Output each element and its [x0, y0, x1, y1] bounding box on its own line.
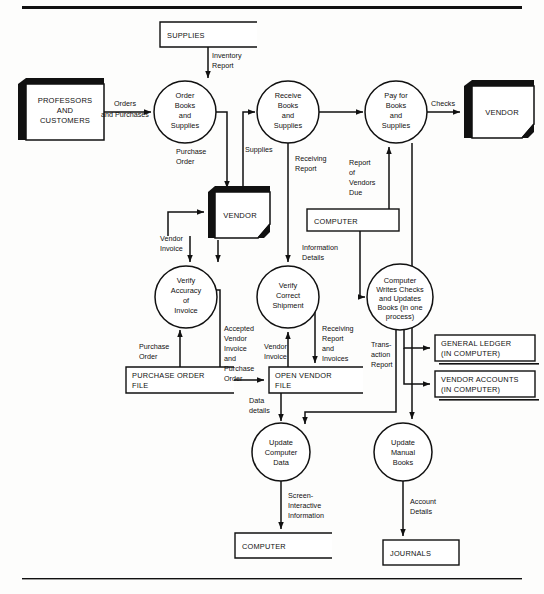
- svg-text:details: details: [249, 406, 270, 415]
- svg-text:Order: Order: [139, 352, 158, 361]
- svg-text:Report: Report: [349, 158, 371, 167]
- store-label: PURCHASE ORDER: [132, 371, 205, 380]
- svg-text:Order: Order: [176, 157, 195, 166]
- process-update-computer-data[interactable]: Update Computer Data: [252, 423, 310, 481]
- process-label-line: Pay for: [384, 91, 408, 100]
- store-label: JOURNALS: [390, 549, 431, 558]
- svg-text:Vendor: Vendor: [160, 234, 183, 243]
- entity-label-line: CUSTOMERS: [40, 116, 90, 125]
- entity-label: VENDOR: [223, 211, 257, 220]
- process-label-line: Writes Checks: [376, 285, 424, 294]
- svg-text:Information: Information: [288, 511, 324, 520]
- store-label: FILE: [132, 381, 148, 390]
- svg-text:Order: Order: [224, 374, 243, 383]
- store-label: OPEN VENDOR: [275, 371, 332, 380]
- process-label-line: Computer: [384, 276, 417, 285]
- store-label: FILE: [275, 381, 291, 390]
- entity-label: VENDOR: [485, 108, 519, 117]
- svg-text:of: of: [349, 168, 355, 177]
- svg-text:Supplies: Supplies: [245, 145, 273, 154]
- store-label: VENDOR ACCOUNTS: [441, 375, 519, 384]
- store-label: (IN COMPUTER): [441, 349, 500, 358]
- svg-text:Report: Report: [322, 334, 344, 343]
- svg-text:Inventory: Inventory: [212, 51, 242, 60]
- process-order-books-and-supplies[interactable]: Order Books and Supplies: [154, 81, 216, 143]
- process-label-line: Correct: [276, 291, 300, 300]
- flow-label-vendor-invoice-file: Vendor Invoice: [264, 342, 287, 361]
- process-label-line: Data: [273, 458, 290, 467]
- store-label: SUPPLIES: [167, 31, 205, 40]
- entity-vendor-right[interactable]: VENDOR: [464, 80, 534, 138]
- store-label: COMPUTER: [242, 542, 286, 551]
- process-pay-for-books-and-supplies[interactable]: Pay for Books and Supplies: [365, 81, 427, 143]
- svg-text:Purchase: Purchase: [176, 147, 206, 156]
- store-computer-middle[interactable]: COMPUTER: [307, 209, 399, 231]
- store-supplies[interactable]: SUPPLIES: [160, 22, 257, 47]
- store-vendor-accounts[interactable]: VENDOR ACCOUNTS (IN COMPUTER): [435, 371, 539, 401]
- svg-text:Invoice: Invoice: [224, 344, 247, 353]
- svg-text:Invoice: Invoice: [160, 244, 183, 253]
- flow-label-supplies: Supplies: [245, 145, 273, 154]
- process-receive-books-and-supplies[interactable]: Receive Books and Supplies: [257, 81, 319, 143]
- process-label-line: Verify: [177, 276, 196, 285]
- store-general-ledger[interactable]: GENERAL LEDGER (IN COMPUTER): [435, 335, 539, 365]
- svg-text:Accepted: Accepted: [224, 324, 254, 333]
- process-label-line: Receive: [275, 91, 302, 100]
- data-flow-diagram: PROFESSORS AND CUSTOMERS VENDOR VENDOR S…: [0, 0, 544, 594]
- flow-label-transaction-report: Trans- action Report: [371, 340, 393, 369]
- svg-text:Invoice: Invoice: [264, 352, 287, 361]
- store-label: (IN COMPUTER): [441, 385, 500, 394]
- process-verify-accuracy-of-invoice[interactable]: Verify Accuracy of Invoice: [155, 266, 217, 328]
- diagram-canvas: PROFESSORS AND CUSTOMERS VENDOR VENDOR S…: [0, 0, 544, 594]
- store-label: COMPUTER: [314, 217, 358, 226]
- bottom-rule: [22, 578, 522, 579]
- svg-text:action: action: [371, 350, 390, 359]
- store-computer-bottom[interactable]: COMPUTER: [235, 533, 332, 558]
- svg-text:and: and: [322, 344, 334, 353]
- process-label-line: Supplies: [274, 121, 303, 130]
- process-label-line: Update: [391, 438, 415, 447]
- svg-text:Vendor: Vendor: [224, 334, 247, 343]
- store-open-vendor-file[interactable]: OPEN VENDOR FILE: [269, 367, 363, 393]
- svg-text:Vendor: Vendor: [264, 342, 287, 351]
- store-journals[interactable]: JOURNALS: [383, 540, 459, 565]
- process-label-line: Invoice: [174, 306, 197, 315]
- entity-vendor-middle[interactable]: VENDOR: [208, 186, 270, 238]
- flow-label-checks: Checks: [431, 99, 455, 108]
- entity-label-line: PROFESSORS: [38, 96, 93, 105]
- svg-text:Purchase: Purchase: [224, 364, 254, 373]
- process-label-line: process): [386, 312, 414, 321]
- entity-label-line: AND: [57, 106, 74, 115]
- process-label-line: Books: [175, 101, 196, 110]
- process-label-line: Books: [386, 101, 407, 110]
- svg-text:and Purchases: and Purchases: [101, 110, 149, 119]
- store-label: GENERAL LEDGER: [441, 339, 511, 348]
- svg-text:Orders: Orders: [114, 99, 136, 108]
- process-label-line: Shipment: [272, 301, 303, 310]
- process-computer-writes-checks[interactable]: Computer Writes Checks and Updates Books…: [367, 264, 433, 330]
- svg-text:Report: Report: [212, 61, 234, 70]
- svg-text:Purchase: Purchase: [139, 342, 169, 351]
- process-label-line: and: [179, 111, 191, 120]
- svg-text:Checks: Checks: [431, 99, 455, 108]
- process-label-line: Computer: [265, 448, 298, 457]
- svg-text:Invoices: Invoices: [322, 354, 349, 363]
- process-verify-correct-shipment[interactable]: Verify Correct Shipment: [257, 266, 319, 328]
- process-label-line: and Updates: [379, 294, 421, 303]
- flow-label-vendor-invoice: Vendor Invoice: [160, 234, 183, 253]
- process-label-line: Accuracy: [171, 286, 202, 295]
- process-update-manual-books[interactable]: Update Manual Books: [374, 423, 432, 481]
- process-label-line: Supplies: [171, 121, 200, 130]
- process-label-line: Books: [278, 101, 299, 110]
- svg-text:Trans-: Trans-: [371, 340, 392, 349]
- entity-professors-and-customers[interactable]: PROFESSORS AND CUSTOMERS: [18, 78, 104, 140]
- svg-text:Receiving: Receiving: [295, 154, 327, 163]
- svg-text:Information: Information: [302, 243, 338, 252]
- svg-text:Details: Details: [302, 253, 324, 262]
- store-purchase-order-file[interactable]: PURCHASE ORDER FILE: [126, 367, 234, 393]
- process-label-line: Books: [393, 458, 414, 467]
- process-label-line: Order: [176, 91, 195, 100]
- process-label-line: Manual: [391, 448, 416, 457]
- process-label-line: Update: [269, 438, 293, 447]
- process-label-line: of: [183, 296, 190, 305]
